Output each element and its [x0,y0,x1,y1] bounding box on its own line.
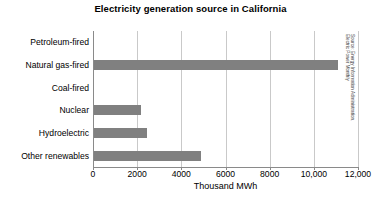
y-axis-category-label: Hydroelectric [1,128,89,138]
y-axis-category-labels: Petroleum-firedNatural gas-firedCoal-fir… [0,31,89,167]
x-axis-tick-label: 6000 [216,169,235,180]
gridline [181,31,182,167]
source-credit: Source: Energy Information Administratio… [344,34,355,164]
bar [94,128,147,138]
bar-chart: Electricity generation source in Califor… [0,0,381,202]
source-credit-line-2: Electric Power Monthly [344,34,349,164]
y-axis-line [93,31,94,167]
gridline [314,31,315,167]
gridline [226,31,227,167]
y-axis-category-label: Nuclear [1,105,89,115]
x-axis-tick-label: 8000 [260,169,279,180]
bar [94,151,201,161]
y-axis-category-label: Other renewables [1,151,89,161]
bar [94,60,338,70]
x-axis-tick-label: 4000 [172,169,191,180]
y-axis-category-label: Coal-fired [1,83,89,93]
bar [94,105,141,115]
y-axis-category-label: Petroleum-fired [1,37,89,47]
x-axis-tick-label: 0 [91,169,96,180]
y-axis-category-label: Natural gas-fired [1,60,89,70]
gridline [270,31,271,167]
x-axis-tick-label: 12,000 [345,169,371,180]
gridline [137,31,138,167]
x-axis-tick-label: 10,000 [301,169,327,180]
source-credit-line-1: Source: Energy Information Administratio… [350,34,355,164]
chart-title: Electricity generation source in Califor… [0,3,381,14]
x-axis-tick-label: 2000 [128,169,147,180]
x-axis-title: Thousand MWh [93,181,358,191]
plot-area [93,31,358,167]
gridline [358,31,359,167]
